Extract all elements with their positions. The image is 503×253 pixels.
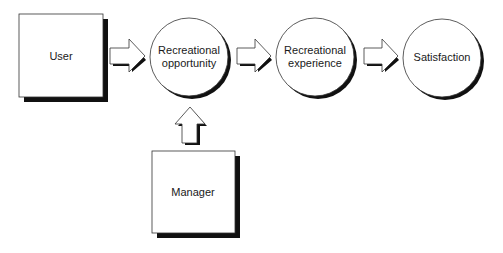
arrow-opportunity-to-experience xyxy=(237,39,272,72)
node-opportunity: Recreational opportunity xyxy=(150,18,231,99)
arrow-right-icon xyxy=(237,39,271,72)
node-experience-label-line1: Recreational xyxy=(284,44,346,56)
node-manager: Manager xyxy=(152,151,240,238)
arrow-user-to-opportunity xyxy=(110,39,146,72)
node-manager-label: Manager xyxy=(171,186,215,198)
node-opportunity-label-line2: opportunity xyxy=(162,57,217,69)
arrow-right-icon xyxy=(110,39,145,72)
arrow-experience-to-satisfaction xyxy=(364,39,399,72)
arrow-right-icon xyxy=(364,39,398,72)
node-experience: Recreational experience xyxy=(276,18,357,99)
node-satisfaction-label: Satisfaction xyxy=(414,51,471,63)
flow-diagram: User Recreational opportunity Recreation… xyxy=(0,0,503,253)
arrow-manager-to-opportunity xyxy=(175,107,207,145)
node-opportunity-label-line1: Recreational xyxy=(158,44,220,56)
node-satisfaction: Satisfaction xyxy=(403,19,484,100)
node-user-label: User xyxy=(49,50,73,62)
node-user: User xyxy=(19,14,108,102)
node-experience-label-line2: experience xyxy=(288,57,342,69)
